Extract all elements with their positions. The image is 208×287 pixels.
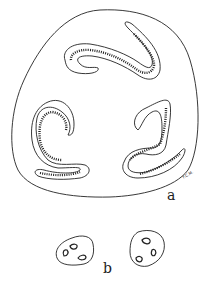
- figure-illustration: [0, 0, 208, 287]
- panel-a-right-band: [123, 100, 185, 178]
- panel-b-right-outline: [130, 230, 164, 266]
- panel-a-label: a: [167, 187, 175, 203]
- panel-b-label: b: [103, 260, 112, 276]
- panel-a-left-band: [32, 100, 90, 179]
- panel-a-top-band: [64, 22, 160, 79]
- panel-b-left-outline: [56, 236, 93, 265]
